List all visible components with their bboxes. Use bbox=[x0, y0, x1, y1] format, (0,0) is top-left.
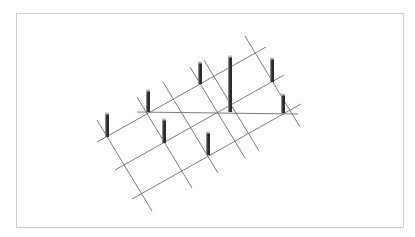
column bbox=[105, 113, 109, 138]
columns bbox=[105, 56, 285, 156]
column-cap bbox=[270, 58, 274, 60]
column bbox=[228, 56, 232, 113]
grid-line-rising bbox=[97, 47, 266, 142]
structural-grid-diagram bbox=[0, 0, 415, 237]
column-side bbox=[270, 59, 271, 82]
grid-line-rising bbox=[132, 104, 301, 199]
column bbox=[270, 58, 274, 83]
column-side bbox=[146, 91, 147, 112]
column-side bbox=[281, 95, 282, 113]
column bbox=[281, 94, 285, 114]
column-side bbox=[198, 63, 199, 84]
column-side bbox=[105, 114, 106, 137]
column bbox=[206, 132, 210, 156]
grid-line-rising bbox=[115, 75, 284, 170]
column-side bbox=[228, 57, 229, 112]
column bbox=[162, 119, 166, 144]
column-cap bbox=[146, 90, 150, 92]
column-cap bbox=[281, 94, 285, 96]
grid-line-falling bbox=[163, 82, 218, 173]
column-side bbox=[206, 133, 207, 155]
column-cap bbox=[228, 56, 232, 58]
column-cap bbox=[162, 119, 166, 121]
column bbox=[146, 90, 150, 113]
column-side bbox=[162, 120, 163, 143]
column-cap bbox=[105, 113, 109, 115]
column bbox=[198, 62, 202, 85]
column-cap bbox=[198, 62, 202, 64]
column-cap bbox=[206, 132, 210, 134]
